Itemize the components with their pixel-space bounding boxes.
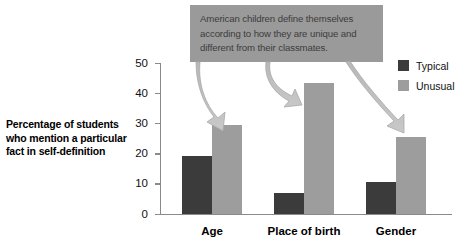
y-tick-20: 20 — [155, 153, 160, 154]
bar-gender-unusual — [396, 137, 426, 214]
y-tick-label-50: 50 — [135, 57, 148, 69]
legend-label-typical: Typical — [416, 60, 449, 72]
x-axis-line — [160, 214, 452, 215]
y-tick-30: 30 — [155, 123, 160, 124]
bar-gender-typical — [366, 182, 396, 214]
y-axis-line — [160, 63, 161, 215]
bar-age-unusual — [212, 125, 242, 214]
y-axis-title-line-1: Percentage of students — [6, 118, 138, 132]
legend-item-unusual: Unusual — [398, 77, 455, 94]
x-category-label-place-of-birth: Place of birth — [268, 225, 341, 237]
y-tick-label-40: 40 — [135, 87, 148, 99]
x-category-label-gender: Gender — [376, 225, 416, 237]
legend: TypicalUnusual — [398, 57, 455, 97]
legend-swatch-typical — [398, 60, 409, 71]
legend-label-unusual: Unusual — [416, 80, 455, 92]
y-tick-label-20: 20 — [135, 147, 148, 159]
y-axis-title: Percentage of students who mention a par… — [6, 118, 138, 159]
x-category-label-age: Age — [201, 225, 223, 237]
y-tick-label-0: 0 — [142, 208, 148, 220]
bar-age-typical — [182, 156, 212, 213]
y-tick-40: 40 — [155, 93, 160, 94]
legend-item-typical: Typical — [398, 57, 455, 74]
y-axis-title-line-2: who mention a particular — [6, 132, 138, 146]
y-tick-0: 0 — [155, 214, 160, 215]
y-tick-label-30: 30 — [135, 117, 148, 129]
y-axis-title-line-3: fact in self-definition — [6, 145, 138, 159]
annotation-callout-text: American children define themselves acco… — [200, 12, 374, 56]
y-tick-label-10: 10 — [135, 177, 148, 189]
bar-place-of-birth-unusual — [304, 83, 334, 214]
y-tick-10: 10 — [155, 183, 160, 184]
bar-place-of-birth-typical — [274, 193, 304, 213]
chart-figure: Percentage of students who mention a par… — [0, 0, 466, 252]
annotation-callout: American children define themselves acco… — [190, 5, 383, 62]
y-tick-50: 50 — [155, 63, 160, 64]
legend-swatch-unusual — [398, 80, 409, 91]
